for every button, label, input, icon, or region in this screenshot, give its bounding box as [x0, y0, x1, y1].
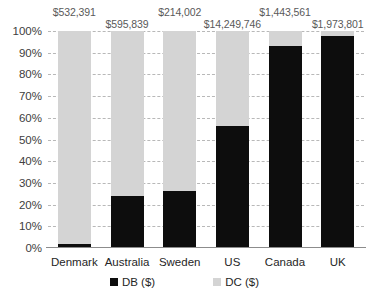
value-label: $1,973,801	[288, 18, 369, 30]
plot-area	[48, 31, 364, 248]
value-label: $595,839	[77, 18, 177, 30]
value-label: $1,443,561	[235, 6, 335, 18]
y-axis-tick-label: 20%	[19, 199, 42, 211]
bar-sweden	[163, 31, 196, 248]
y-axis-tick-label: 50%	[19, 134, 42, 146]
y-axis-tick-label: 30%	[19, 177, 42, 189]
bar-segment-db	[111, 196, 144, 248]
y-axis-tick-label: 40%	[19, 155, 42, 167]
gridline	[48, 74, 364, 75]
y-axis-tick-label: 60%	[19, 112, 42, 124]
bar-segment-db	[163, 191, 196, 249]
bar-denmark	[58, 31, 91, 248]
gridline	[48, 53, 364, 54]
bar-segment-db	[269, 46, 302, 248]
value-label: $532,391	[24, 6, 124, 18]
x-axis-label-uk: UK	[288, 256, 369, 268]
bar-australia	[111, 31, 144, 248]
gridline	[48, 161, 364, 162]
bar-us	[216, 31, 249, 248]
gridline	[48, 31, 364, 32]
bar-segment-db	[321, 36, 354, 248]
gridline	[48, 140, 364, 141]
gridline	[48, 205, 364, 206]
bar-segment-dc	[216, 31, 249, 126]
value-label: $14,249,746	[182, 18, 282, 30]
gridline	[48, 118, 364, 119]
x-axis-line	[46, 247, 366, 248]
bar-segment-dc	[111, 31, 144, 196]
bar-segment-db	[216, 126, 249, 248]
bar-segment-dc	[269, 31, 302, 46]
bar-canada	[269, 31, 302, 248]
stacked-bar-chart: $532,391$595,839$214,002$14,249,746$1,44…	[0, 0, 369, 297]
y-axis-tick-label: 70%	[19, 90, 42, 102]
legend-item-db[interactable]: DB ($)	[110, 276, 155, 288]
legend-label: DB ($)	[122, 276, 155, 288]
bar-segment-dc	[163, 31, 196, 190]
legend-label: DC ($)	[225, 276, 259, 288]
legend-swatch-icon	[110, 278, 118, 286]
bar-uk	[321, 31, 354, 248]
y-axis-tick-label: 0%	[25, 242, 42, 254]
y-axis-tick-label: 90%	[19, 47, 42, 59]
y-axis-tick-label: 10%	[19, 220, 42, 232]
legend-item-dc[interactable]: DC ($)	[213, 276, 259, 288]
y-axis-tick-label: 100%	[13, 25, 42, 37]
legend-swatch-icon	[213, 278, 221, 286]
gridline	[48, 226, 364, 227]
legend: DB ($)DC ($)	[0, 276, 369, 288]
gridline	[48, 96, 364, 97]
gridline	[48, 183, 364, 184]
y-axis-tick-label: 80%	[19, 68, 42, 80]
y-axis: 100%90%80%70%60%50%40%30%20%10%0%	[0, 31, 47, 248]
bar-segment-dc	[58, 31, 91, 244]
value-label: $214,002	[130, 6, 230, 18]
